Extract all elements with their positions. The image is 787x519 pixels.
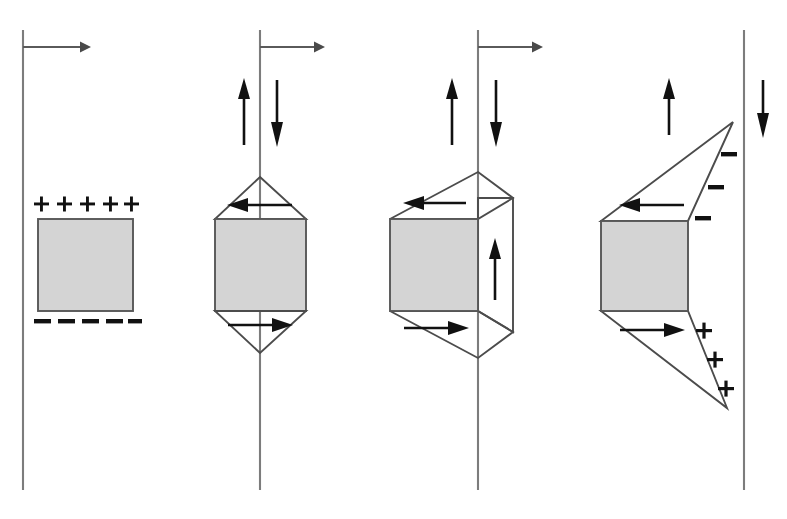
panel-4-down-arrow xyxy=(757,80,769,138)
minus-sign-glyph xyxy=(721,152,737,156)
panel-3-bottom-face xyxy=(390,311,513,358)
panel-4-bottom-right-arrow xyxy=(620,323,685,337)
panel-3-down-arrow xyxy=(490,80,502,147)
panel-1-undeformed-state xyxy=(23,30,142,490)
panel-1-top-right-arrow xyxy=(23,42,91,53)
panel-2-symmetric-bipyramid-state xyxy=(215,30,325,490)
panel-2-down-arrow xyxy=(271,80,283,147)
panel-3-body xyxy=(390,219,478,311)
panel-3-sheared-prism-state xyxy=(390,30,543,490)
panel-2-top-right-arrow xyxy=(260,42,325,53)
minus-sign-glyph xyxy=(695,216,711,220)
panel-4-minus-charge-group xyxy=(695,152,737,220)
plus-sign-glyph xyxy=(80,197,95,212)
panel-2-body xyxy=(215,219,306,311)
panel-3-right-face-up-arrow xyxy=(489,238,501,300)
minus-sign-glyph xyxy=(708,185,724,189)
minus-sign-glyph xyxy=(106,319,123,323)
shear-deformation-diagram xyxy=(0,0,787,519)
minus-sign-glyph xyxy=(58,319,75,323)
panel-3-top-face xyxy=(390,172,513,219)
plus-sign-glyph xyxy=(124,197,139,212)
panel-1-plus-charge-row xyxy=(34,197,139,212)
panel-3-top-right-arrow xyxy=(478,42,543,53)
plus-sign-glyph xyxy=(103,197,118,212)
panel-4-up-arrow xyxy=(663,78,675,135)
panel-1-body xyxy=(38,219,133,311)
panel-4-plus-charge-group xyxy=(696,323,734,397)
plus-sign-glyph xyxy=(718,381,734,397)
minus-sign-glyph xyxy=(82,319,99,323)
panel-3-up-arrow xyxy=(446,78,458,145)
minus-sign-glyph xyxy=(34,319,51,323)
panel-4-body xyxy=(601,221,688,311)
plus-sign-glyph xyxy=(57,197,72,212)
panel-1-minus-charge-row xyxy=(34,319,142,323)
plus-sign-glyph xyxy=(34,197,49,212)
figure-root: Four-stage shear deformation and surface… xyxy=(0,0,787,519)
panel-2-up-arrow xyxy=(238,78,250,145)
panel-4-fully-sheared-charged-state xyxy=(601,30,769,490)
minus-sign-glyph xyxy=(128,319,142,323)
